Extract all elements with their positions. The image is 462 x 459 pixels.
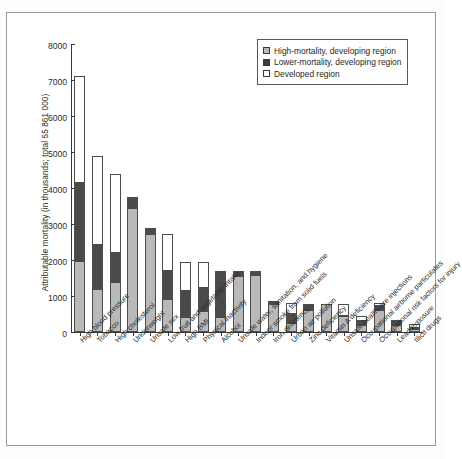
bar[interactable] bbox=[180, 262, 191, 332]
bar-segment bbox=[162, 300, 173, 332]
bar[interactable] bbox=[374, 303, 385, 332]
x-axis-tick-mark bbox=[309, 332, 310, 336]
x-axis-tick-mark bbox=[379, 332, 380, 336]
y-axis-tick: 8000 bbox=[48, 35, 71, 53]
bar-segment bbox=[374, 311, 385, 332]
bar-segment bbox=[92, 290, 103, 332]
bar-segment bbox=[162, 234, 173, 270]
legend-swatch-high bbox=[263, 47, 270, 54]
bar[interactable] bbox=[215, 271, 226, 332]
bar[interactable] bbox=[198, 262, 209, 332]
chart-legend: High-mortality, developing regionLower-m… bbox=[257, 39, 408, 85]
bar-segment bbox=[180, 262, 191, 289]
bar-segment bbox=[321, 305, 332, 332]
bar-segment bbox=[268, 305, 279, 332]
x-axis-tick-mark bbox=[326, 332, 327, 336]
bar-series-group bbox=[71, 44, 423, 332]
y-axis-tick-label: 1000 bbox=[48, 293, 71, 303]
y-axis-tick: 6000 bbox=[48, 107, 71, 125]
x-axis-tick-mark bbox=[344, 332, 345, 336]
bar-segment bbox=[180, 318, 191, 332]
y-axis-tick-label: 5000 bbox=[48, 149, 71, 159]
legend-item: Lower-mortality, developing region bbox=[263, 57, 401, 67]
bar[interactable] bbox=[286, 303, 297, 332]
y-axis-tick: 0 bbox=[62, 323, 71, 341]
bar[interactable] bbox=[303, 304, 314, 332]
bar[interactable] bbox=[110, 174, 121, 332]
bar[interactable] bbox=[250, 271, 261, 332]
bar[interactable] bbox=[356, 316, 367, 332]
bar[interactable] bbox=[145, 228, 156, 332]
y-axis-tick: 3000 bbox=[48, 215, 71, 233]
bar[interactable] bbox=[233, 271, 244, 332]
bar-segment bbox=[110, 174, 121, 251]
legend-item: Developed region bbox=[263, 69, 401, 79]
bar-segment bbox=[198, 287, 209, 312]
x-axis-tick-mark bbox=[397, 332, 398, 336]
bar-segment bbox=[215, 318, 226, 332]
y-axis-tick-label: 8000 bbox=[48, 41, 71, 51]
x-axis-tick-mark bbox=[168, 332, 169, 336]
x-axis-tick-mark bbox=[97, 332, 98, 336]
x-axis-tick-mark bbox=[115, 332, 116, 336]
bar[interactable] bbox=[127, 197, 138, 332]
x-axis-line bbox=[71, 332, 423, 333]
bar-segment bbox=[286, 303, 297, 313]
y-axis-tick-label: 4000 bbox=[48, 185, 71, 195]
y-axis-tick: 4000 bbox=[48, 179, 71, 197]
y-axis-tick-label: 3000 bbox=[48, 221, 71, 231]
bar-segment bbox=[250, 276, 261, 332]
bar[interactable] bbox=[409, 324, 420, 332]
bar-segment bbox=[74, 76, 85, 182]
bar-segment bbox=[198, 312, 209, 332]
legend-item: High-mortality, developing region bbox=[263, 46, 401, 56]
legend-swatch-lower bbox=[263, 59, 270, 66]
bar[interactable] bbox=[338, 304, 349, 332]
x-axis-tick-mark bbox=[361, 332, 362, 336]
bar-segment bbox=[198, 262, 209, 286]
bar-segment bbox=[338, 317, 349, 332]
y-axis-tick-label: 6000 bbox=[48, 113, 71, 123]
bar-segment bbox=[74, 182, 85, 262]
x-axis-tick-mark bbox=[203, 332, 204, 336]
bar[interactable] bbox=[321, 304, 332, 332]
x-axis-tick-mark bbox=[133, 332, 134, 336]
x-axis-tick-mark bbox=[221, 332, 222, 336]
legend-label: High-mortality, developing region bbox=[274, 46, 396, 56]
bar[interactable] bbox=[391, 320, 402, 332]
bar-segment bbox=[127, 209, 138, 332]
bar-segment bbox=[92, 244, 103, 290]
bar-segment bbox=[303, 311, 314, 332]
x-axis-tick-mark bbox=[414, 332, 415, 336]
y-axis-tick: 1000 bbox=[48, 287, 71, 305]
legend-label: Lower-mortality, developing region bbox=[274, 57, 401, 67]
bar-segment bbox=[162, 270, 173, 299]
bar-segment bbox=[338, 304, 349, 316]
x-axis-tick-mark bbox=[291, 332, 292, 336]
bar[interactable] bbox=[74, 76, 85, 332]
x-axis-tick-mark bbox=[238, 332, 239, 336]
legend-swatch-dev bbox=[263, 70, 270, 77]
bar-segment bbox=[92, 156, 103, 244]
x-axis-tick-mark bbox=[273, 332, 274, 336]
bar-segment bbox=[286, 313, 297, 324]
bar[interactable] bbox=[162, 234, 173, 332]
x-axis-tick-mark bbox=[185, 332, 186, 336]
bar-segment bbox=[233, 277, 244, 332]
bar-segment bbox=[74, 262, 85, 332]
figure-frame: Attributable mortality (in thousands; to… bbox=[6, 12, 436, 446]
bar-segment bbox=[110, 283, 121, 332]
bar-segment bbox=[180, 290, 191, 318]
bar[interactable] bbox=[92, 156, 103, 332]
y-axis-tick: 7000 bbox=[48, 71, 71, 89]
y-axis-tick-label: 7000 bbox=[48, 77, 71, 87]
y-axis-tick-label: 0 bbox=[62, 329, 71, 339]
y-axis-tick-label: 2000 bbox=[48, 257, 71, 267]
y-axis-tick: 5000 bbox=[48, 143, 71, 161]
bar-segment bbox=[145, 235, 156, 332]
bar-segment bbox=[110, 252, 121, 284]
y-axis-tick-mark bbox=[71, 332, 75, 333]
bar-segment bbox=[127, 197, 138, 209]
bar[interactable] bbox=[268, 301, 279, 332]
